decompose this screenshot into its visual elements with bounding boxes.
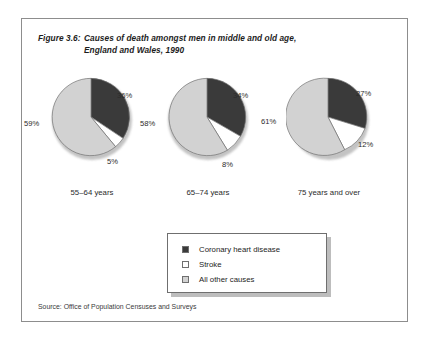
pie-chart-65-74: 34% 58% 8% 65–74 years [146, 75, 270, 210]
age-group-label-55-64: 55–64 years [30, 188, 154, 197]
legend-item-coronary: Coronary heart disease [182, 242, 322, 256]
pie-chart-75-over: 27% 61% 12% 75 years and over [267, 75, 391, 210]
legend-list: Coronary heart disease Stroke All other … [182, 242, 322, 287]
pie-charts-row: 36% 59% 5% 55–64 years 34% 58% [30, 75, 401, 210]
legend-label-coronary: Coronary heart disease [199, 245, 280, 254]
figure-title-line-2: England and Wales, 1990 [84, 45, 184, 55]
figure-title-line-1: Causes of death amongst men in middle an… [84, 33, 296, 43]
legend-swatch-coronary-icon [182, 246, 189, 253]
pie-wrap: 34% 58% 8% [165, 75, 251, 165]
figure-number: Figure 3.6: [38, 33, 84, 45]
age-group-label-75-over: 75 years and over [267, 188, 391, 197]
pct-label-stroke: 5% [107, 157, 118, 166]
legend-swatch-other-icon [182, 276, 189, 283]
legend-label-stroke: Stroke [199, 260, 222, 269]
legend-swatch-stroke-icon [182, 261, 189, 268]
legend-item-other: All other causes [182, 272, 322, 286]
pct-label-coronary: 34% [233, 91, 248, 100]
legend-item-stroke: Stroke [182, 257, 322, 271]
figure-root: Figure 3.6:Causes of death amongst men i… [0, 0, 429, 340]
pct-label-coronary: 27% [356, 89, 371, 98]
age-group-label-65-74: 65–74 years [146, 188, 270, 197]
pct-label-other: 59% [24, 119, 39, 128]
pie-chart-55-64: 36% 59% 5% 55–64 years [30, 75, 154, 210]
pct-label-coronary: 36% [117, 91, 132, 100]
pie-svg-55-64 [49, 75, 133, 159]
pct-label-stroke: 12% [358, 140, 373, 149]
legend-box: Coronary heart disease Stroke All other … [167, 233, 327, 293]
pct-label-stroke: 8% [222, 160, 233, 169]
pie-svg-65-74 [165, 75, 249, 159]
pct-label-other: 58% [140, 119, 155, 128]
pct-label-other: 61% [261, 117, 276, 126]
source-note: Source: Office of Population Censuses an… [38, 303, 196, 310]
figure-frame: Figure 3.6:Causes of death amongst men i… [21, 18, 408, 322]
legend-label-other: All other causes [199, 275, 254, 284]
pie-wrap: 36% 59% 5% [49, 75, 135, 165]
pie-wrap: 27% 61% 12% [286, 75, 372, 165]
figure-title: Figure 3.6:Causes of death amongst men i… [38, 33, 388, 56]
